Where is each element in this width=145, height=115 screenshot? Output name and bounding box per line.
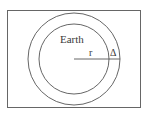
earth-diagram: Earth r Δ <box>0 0 145 115</box>
earth-label: Earth <box>60 33 84 45</box>
radius-label: r <box>89 47 93 58</box>
delta-label: Δ <box>110 47 117 58</box>
